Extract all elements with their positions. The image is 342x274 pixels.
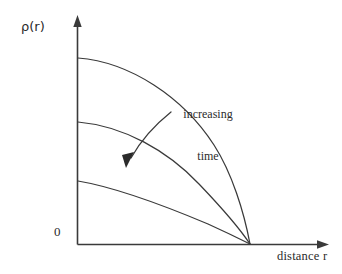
plot-canvas xyxy=(0,0,342,274)
x-axis xyxy=(78,240,330,248)
x-axis-label: distance r xyxy=(277,250,327,263)
y-axis xyxy=(73,15,81,245)
y-axis-label: ρ(r) xyxy=(21,20,45,34)
increasing-time-annotation: increasing time xyxy=(176,79,240,191)
x-axis-arrowhead-icon xyxy=(317,240,329,248)
annotation-arrow-shaft xyxy=(131,112,171,158)
annotation-line-2: time xyxy=(176,149,240,163)
density-profile-figure: ρ(r) 0 distance r increasing time xyxy=(0,0,342,274)
y-axis-arrowhead-icon xyxy=(73,15,81,27)
annotation-arrowhead-icon xyxy=(122,152,134,168)
origin-tick-label: 0 xyxy=(54,225,61,239)
annotation-line-1: increasing xyxy=(176,107,240,121)
increasing-time-arrow xyxy=(122,112,171,168)
